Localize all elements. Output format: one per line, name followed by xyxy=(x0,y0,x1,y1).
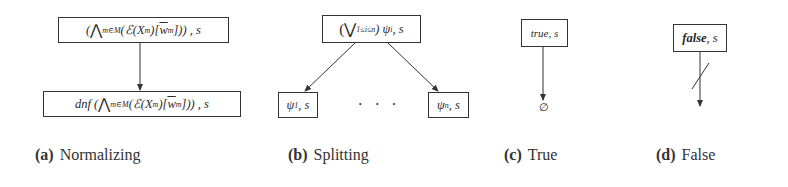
node-b-top: (⋁1≤i≤n) ψi, s xyxy=(322,15,421,43)
w-bar: w xyxy=(159,23,167,38)
keyword-false: false xyxy=(682,31,706,46)
dnf: dnf ( xyxy=(75,97,98,112)
bigop: ⋀ xyxy=(98,95,110,113)
caption-text: False xyxy=(682,146,716,163)
caption-c: (c)True xyxy=(504,146,557,164)
expr: , s xyxy=(449,98,460,113)
keyword-true: true xyxy=(531,27,549,39)
w-bar: w xyxy=(167,97,175,112)
caption-a: (a)Normalizing xyxy=(35,146,141,164)
expr: )[ xyxy=(150,23,159,38)
bigop: ⋁ xyxy=(344,20,356,38)
bigop-sub: m∈M xyxy=(110,100,128,109)
caption-text: Normalizing xyxy=(60,146,141,163)
expr: )[ xyxy=(158,97,167,112)
bigop-sub: m∈M xyxy=(102,26,120,35)
edge-split-right xyxy=(388,43,438,91)
node-b-right: ψn, s xyxy=(428,92,469,118)
expr: , s xyxy=(707,31,718,46)
node-a-bottom: dnf (⋀m∈M(ℰ(Xm)[wm])) , s xyxy=(43,91,241,117)
expr: ])) , s xyxy=(182,97,209,112)
caption-label: (c) xyxy=(504,146,522,163)
expr: , s xyxy=(393,22,404,37)
empty-set: ∅ xyxy=(539,101,549,114)
psi: ψ xyxy=(287,98,295,113)
node-c-top: true, s xyxy=(521,19,568,47)
caption-label: (a) xyxy=(35,146,54,163)
bigop: ⋀ xyxy=(90,21,102,39)
bigop-sub: 1≤i≤n xyxy=(356,25,375,34)
caption-label: (b) xyxy=(288,146,308,163)
expr: , s xyxy=(298,98,309,113)
ellipsis: · · · xyxy=(358,96,400,112)
node-d-top: false, s xyxy=(673,24,727,52)
caption-label: (d) xyxy=(656,146,676,163)
node-a-top: (⋀m∈M(ℰ(Xm)[wm])) , s xyxy=(58,17,229,43)
expr: ])) , s xyxy=(174,23,201,38)
caption-text: True xyxy=(528,146,558,163)
expr: , s xyxy=(548,27,558,39)
expr: (ℰ(X xyxy=(129,96,153,112)
psi: ψ xyxy=(437,98,445,113)
expr: ) ψ xyxy=(375,22,390,37)
node-b-left: ψ1, s xyxy=(278,92,318,118)
expr: (ℰ(X xyxy=(121,22,145,38)
caption-text: Splitting xyxy=(314,146,369,163)
caption-b: (b)Splitting xyxy=(288,146,369,164)
caption-d: (d)False xyxy=(656,146,715,164)
edge-split-left xyxy=(305,43,355,91)
